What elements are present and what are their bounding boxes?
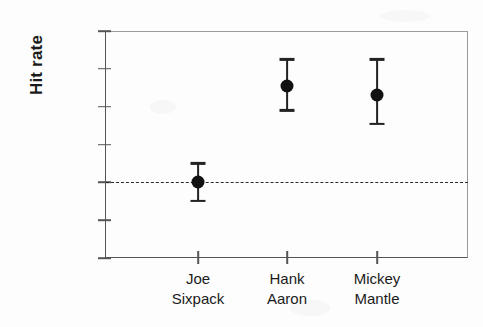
error-bar-cap-lower bbox=[280, 109, 295, 111]
chart-figure: Hit rate 21%23%25%27%29%31%33% JoeSixpac… bbox=[0, 0, 483, 327]
y-axis-label: Hit rate bbox=[22, 10, 52, 120]
error-bar-cap-upper bbox=[280, 58, 295, 60]
data-point-marker bbox=[281, 79, 294, 92]
reference-line-25pct bbox=[106, 182, 468, 183]
x-tick-mark bbox=[197, 251, 199, 264]
y-tick-mark bbox=[98, 257, 111, 259]
scan-artifact bbox=[380, 10, 430, 22]
error-bar-cap-lower bbox=[191, 200, 206, 202]
x-tick-label-line2: Mantle bbox=[312, 289, 442, 309]
y-tick-mark bbox=[98, 106, 111, 108]
error-bar-cap-upper bbox=[191, 162, 206, 164]
x-tick-label-line1: Mickey bbox=[312, 269, 442, 289]
x-tick-mark bbox=[286, 251, 288, 264]
y-tick-mark bbox=[98, 144, 111, 146]
y-tick-mark bbox=[98, 219, 111, 221]
data-point-marker bbox=[192, 176, 205, 189]
data-point-marker bbox=[371, 89, 384, 102]
error-bar-cap-lower bbox=[370, 123, 385, 125]
error-bar-cap-upper bbox=[370, 58, 385, 60]
y-tick-mark bbox=[98, 30, 111, 32]
x-tick-label: MickeyMantle bbox=[312, 269, 442, 309]
y-tick-mark bbox=[98, 68, 111, 70]
x-tick-mark bbox=[376, 251, 378, 264]
